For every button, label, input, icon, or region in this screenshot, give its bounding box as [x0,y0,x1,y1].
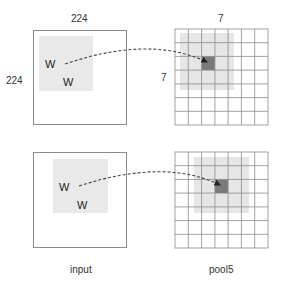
pool5-grid-bottom [175,152,268,248]
active-cell [215,179,228,193]
pool5-grid-top [175,29,268,125]
diagram-overlay [0,0,281,282]
active-cell [202,56,215,70]
